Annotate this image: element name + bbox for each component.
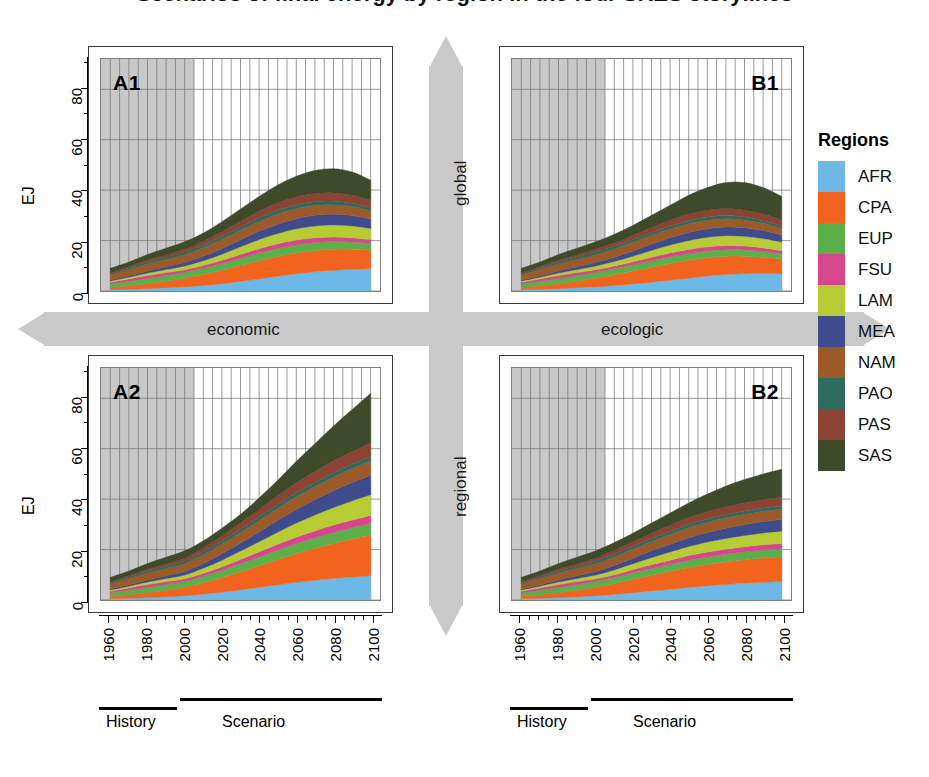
legend-item-pao[interactable]: PAO	[800, 378, 925, 409]
legend-label-nam: NAM	[858, 353, 896, 373]
stacked-area-b1	[512, 59, 791, 291]
x-tick-minor	[727, 615, 728, 620]
legend-item-lam[interactable]: LAM	[800, 285, 925, 316]
x-tick-minor	[567, 615, 568, 620]
legend-item-afr[interactable]: AFR	[800, 161, 925, 192]
panel-label-a2: A2	[113, 380, 141, 404]
x-tick-major	[557, 615, 558, 623]
legend-item-mea[interactable]: MEA	[800, 316, 925, 347]
legend-item-eup[interactable]: EUP	[800, 223, 925, 254]
x-tick-minor	[623, 615, 624, 620]
x-tick-major	[670, 615, 671, 623]
x-tick-minor	[203, 615, 204, 620]
legend-swatch-cpa	[818, 192, 845, 223]
panel-label-a1: A1	[113, 71, 141, 95]
panel-a2: A2	[88, 355, 393, 613]
x-axis-right: 19601980200020202040206020802100	[510, 615, 793, 661]
panel-label-b2: B2	[751, 380, 779, 404]
legend-label-mea: MEA	[858, 322, 895, 342]
figure-title-text: Scenarios of final energy by region in t…	[136, 0, 792, 7]
x-tick-minor	[680, 615, 681, 620]
scenario-rule-left	[180, 698, 382, 701]
x-tick-minor	[137, 615, 138, 620]
x-tick-major	[746, 615, 747, 623]
y-tick-minor	[84, 216, 88, 217]
legend-label-pao: PAO	[858, 384, 893, 404]
x-tick-minor	[250, 615, 251, 620]
stacked-area-b2	[512, 368, 791, 600]
y-tick-label: 0	[69, 293, 86, 301]
x-tick-minor	[363, 615, 364, 620]
x-tick-label: 1980	[549, 628, 566, 661]
y-tick-label: 20	[69, 551, 86, 568]
x-tick-major	[784, 615, 785, 623]
legend-swatch-sas	[818, 440, 845, 471]
x-tick-major	[259, 615, 260, 623]
legend-item-pas[interactable]: PAS	[800, 409, 925, 440]
x-tick-label: 1960	[511, 628, 528, 661]
x-tick-minor	[642, 615, 643, 620]
legend-swatch-fsu	[818, 254, 845, 285]
legend-item-nam[interactable]: NAM	[800, 347, 925, 378]
x-tick-label: 2040	[662, 628, 679, 661]
y-tick-label: 0	[69, 602, 86, 610]
x-tick-minor	[316, 615, 317, 620]
arrow-left-tip	[18, 312, 46, 346]
x-tick-minor	[765, 615, 766, 620]
legend-label-fsu: FSU	[858, 260, 892, 280]
x-tick-major	[708, 615, 709, 623]
y-tick-label: 40	[69, 499, 86, 516]
x-tick-label: 2060	[700, 628, 717, 661]
history-rule-left	[99, 707, 177, 710]
panel-label-b1: B1	[751, 71, 779, 95]
y-tick-minor	[84, 371, 88, 372]
scenario-label-left: Scenario	[222, 713, 285, 731]
plot-area-b2	[511, 367, 792, 601]
plot-area-a1	[100, 58, 381, 292]
x-tick-minor	[529, 615, 530, 620]
y-tick-minor	[84, 525, 88, 526]
x-tick-minor	[614, 615, 615, 620]
legend-item-sas[interactable]: SAS	[800, 440, 925, 471]
x-tick-label: 1960	[100, 628, 117, 661]
x-tick-minor	[156, 615, 157, 620]
x-tick-minor	[307, 615, 308, 620]
x-tick-major	[184, 615, 185, 623]
x-tick-major	[335, 615, 336, 623]
y-tick-minor	[84, 474, 88, 475]
x-tick-minor	[193, 615, 194, 620]
legend-swatch-lam	[818, 285, 845, 316]
history-label-left: History	[106, 713, 156, 731]
history-label-right: History	[517, 713, 567, 731]
x-tick-minor	[548, 615, 549, 620]
legend-swatch-pas	[818, 409, 845, 440]
y-tick-label: 40	[69, 190, 86, 207]
x-tick-minor	[718, 615, 719, 620]
x-tick-minor	[174, 615, 175, 620]
x-tick-minor	[165, 615, 166, 620]
axis-label-global: global	[451, 161, 471, 206]
legend-item-cpa[interactable]: CPA	[800, 192, 925, 223]
x-tick-major	[146, 615, 147, 623]
legend-rows: AFRCPAEUPFSULAMMEANAMPAOPASSAS	[800, 161, 925, 471]
x-tick-label: 2020	[213, 628, 230, 661]
legend-label-eup: EUP	[858, 229, 893, 249]
axis-label-regional: regional	[451, 457, 471, 518]
legend-item-fsu[interactable]: FSU	[800, 254, 925, 285]
x-tick-major	[222, 615, 223, 623]
x-tick-major	[108, 615, 109, 623]
plot-area-a2	[100, 367, 381, 601]
y-tick-minor	[84, 165, 88, 166]
x-tick-minor	[325, 615, 326, 620]
x-tick-minor	[604, 615, 605, 620]
x-tick-label: 2020	[624, 628, 641, 661]
y-tick-label: 60	[69, 448, 86, 465]
legend-swatch-pao	[818, 378, 845, 409]
x-tick-label: 2000	[586, 628, 603, 661]
y-axis-top: 020406080	[42, 57, 88, 293]
legend-swatch-eup	[818, 223, 845, 254]
x-tick-minor	[652, 615, 653, 620]
y-axis-line	[87, 366, 88, 602]
legend-swatch-mea	[818, 316, 845, 347]
x-tick-minor	[538, 615, 539, 620]
